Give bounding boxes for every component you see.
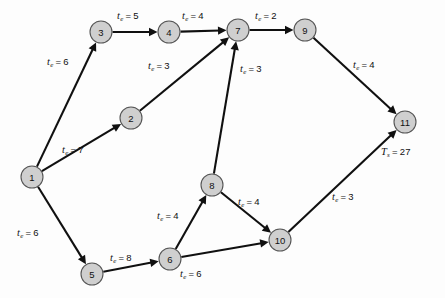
node-label-2: 2 [128, 113, 133, 124]
edge-line [180, 31, 220, 32]
edge-label-6-10: te=6 [180, 268, 202, 279]
node-8[interactable]: 8 [201, 174, 223, 196]
edge-label-6-8: te=4 [157, 210, 179, 221]
edge-6-to-8 [176, 195, 207, 249]
node-label-10: 10 [275, 235, 286, 246]
node-7[interactable]: 7 [227, 19, 249, 41]
edge-label-1-5: te=6 [17, 227, 39, 238]
edge-line [176, 200, 204, 249]
edge-label-4-7: te=4 [182, 10, 204, 21]
edge-1-to-5 [38, 187, 86, 264]
node-4[interactable]: 4 [158, 21, 180, 43]
node-label-11: 11 [400, 117, 410, 128]
node-label-1: 1 [29, 172, 34, 183]
edge-line [103, 262, 153, 272]
edge-9-to-11 [313, 38, 396, 114]
edge-line [313, 38, 392, 110]
edge-line [288, 134, 392, 232]
node-1[interactable]: 1 [21, 166, 43, 188]
node-label-3: 3 [98, 27, 103, 38]
edge-label-2-7: te=3 [148, 60, 170, 71]
annotation-total-time: Ts=27 [381, 146, 411, 157]
edge-arrowhead [150, 259, 159, 267]
edge-label-3-4: te=5 [117, 10, 139, 21]
node-11[interactable]: 11 [394, 111, 416, 133]
edge-label-8-10: te=4 [238, 196, 260, 207]
edge-4-to-7 [180, 26, 226, 34]
edge-arrowhead [231, 41, 239, 50]
edge-arrowhead [218, 26, 227, 34]
edge-line [38, 187, 83, 259]
node-label-4: 4 [166, 27, 171, 38]
edge-label-1-3: te=6 [47, 56, 69, 67]
edge-line [181, 243, 262, 257]
edge-line [214, 47, 235, 173]
edge-label-1-2: te=7 [62, 144, 84, 155]
edge-label-5-6: te=8 [110, 252, 132, 263]
edge-label-9-11: te=4 [353, 59, 375, 70]
edge-label-7-9: te=2 [255, 10, 277, 21]
edge-label-8-7: te=3 [240, 63, 262, 74]
node-3[interactable]: 3 [90, 21, 112, 43]
edge-arrowhead [149, 28, 158, 36]
node-label-5: 5 [89, 269, 94, 280]
edge-arrowhead [285, 26, 294, 34]
node-label-6: 6 [167, 254, 172, 265]
node-2[interactable]: 2 [120, 107, 142, 129]
edge-3-to-4 [113, 28, 158, 36]
edge-line [140, 41, 225, 111]
node-label-9: 9 [302, 25, 307, 36]
node-5[interactable]: 5 [81, 263, 103, 285]
node-9[interactable]: 9 [294, 19, 316, 41]
edge-6-to-10 [181, 239, 268, 257]
node-6[interactable]: 6 [159, 248, 181, 270]
edge-label-10-11: te=3 [332, 191, 354, 202]
edge-7-to-9 [250, 26, 294, 34]
node-label-7: 7 [235, 25, 240, 36]
node-label-8: 8 [209, 180, 214, 191]
edge-arrowhead [260, 239, 269, 247]
edge-2-to-7 [140, 37, 229, 110]
diagram-canvas: 1234567891011 te=6te=7te=6te=5te=4te=3te… [0, 0, 445, 298]
node-10[interactable]: 10 [269, 229, 291, 251]
edges-layer [37, 26, 397, 272]
edge-8-to-7 [214, 41, 239, 173]
